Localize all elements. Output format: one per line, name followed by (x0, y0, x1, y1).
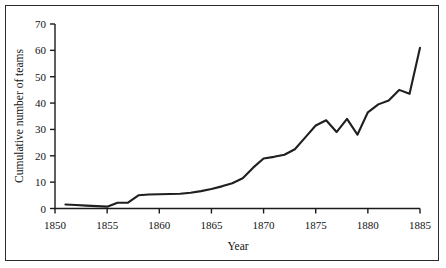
data-series-line (65, 48, 420, 207)
y-axis-title: Cumulative number of teams (13, 49, 25, 183)
x-axis-title: Year (227, 240, 248, 252)
y-tick-label-10: 10 (35, 176, 47, 188)
y-tick-label-70: 70 (35, 18, 47, 30)
line-chart: 010203040506070 185018551860186518701875… (0, 0, 446, 268)
x-tick-label-1860: 1860 (148, 219, 171, 231)
y-tick-label-50: 50 (35, 71, 47, 83)
y-axis-tick-labels: 010203040506070 (35, 18, 47, 215)
y-tick-label-20: 20 (35, 150, 47, 162)
x-tick-label-1865: 1865 (200, 219, 223, 231)
x-axis-ticks (55, 209, 420, 214)
y-tick-label-40: 40 (35, 97, 47, 109)
x-axis-tick-labels: 18501855186018651870187518801885 (44, 219, 432, 231)
x-tick-label-1855: 1855 (96, 219, 119, 231)
x-tick-label-1875: 1875 (305, 219, 328, 231)
x-tick-label-1885: 1885 (409, 219, 432, 231)
x-tick-label-1870: 1870 (253, 219, 276, 231)
y-axis-ticks (50, 24, 55, 209)
y-tick-label-60: 60 (35, 44, 47, 56)
x-tick-label-1880: 1880 (357, 219, 380, 231)
x-tick-label-1850: 1850 (44, 219, 67, 231)
y-tick-label-0: 0 (41, 203, 47, 215)
y-tick-label-30: 30 (35, 123, 47, 135)
figure-container: 010203040506070 185018551860186518701875… (0, 0, 446, 268)
